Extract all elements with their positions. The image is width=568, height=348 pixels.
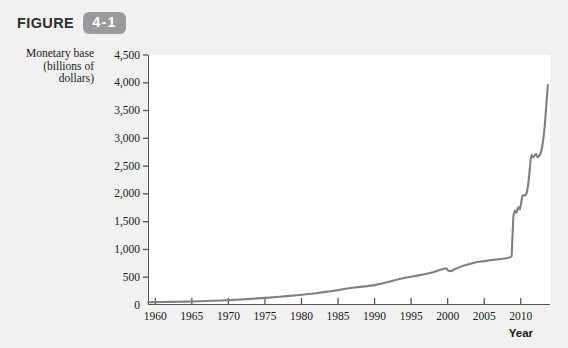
- y-axis-tick-label: 2,500: [96, 161, 140, 172]
- y-axis-tick-label: 2,000: [96, 188, 140, 199]
- y-axis-tick-label: 0: [96, 300, 140, 311]
- monetary-base-line: [148, 85, 548, 302]
- y-axis-tick-label: 3,000: [96, 133, 140, 144]
- y-axis-tick-label: 4,000: [96, 77, 140, 88]
- y-axis-tick-label: 4,500: [96, 50, 140, 61]
- figure-card: FIGURE 4-1 Monetary base (billions of do…: [0, 0, 568, 348]
- y-axis-tick-label: 1,500: [96, 216, 140, 227]
- chart-canvas: [0, 0, 568, 348]
- y-axis-tick-label: 1,000: [96, 244, 140, 255]
- x-axis-tick-label: 2010: [498, 311, 544, 322]
- y-axis-tick-marks: [143, 55, 148, 277]
- y-axis-tick-label: 500: [96, 272, 140, 283]
- y-axis-tick-label: 3,500: [96, 105, 140, 116]
- x-axis-title: Year: [509, 327, 533, 339]
